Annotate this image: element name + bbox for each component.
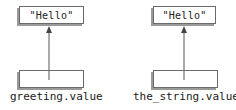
- left-variable-box: [19, 70, 84, 88]
- left-string-object-box: "Hello": [19, 6, 84, 24]
- right-string-object-text: "Hello": [154, 7, 215, 23]
- left-variable-label: greeting.value: [10, 90, 103, 103]
- left-string-object-text: "Hello": [20, 7, 83, 23]
- right-variable-label: the_string.value: [133, 90, 236, 103]
- right-string-object-box: "Hello": [153, 6, 216, 24]
- right-variable-box: [153, 70, 218, 88]
